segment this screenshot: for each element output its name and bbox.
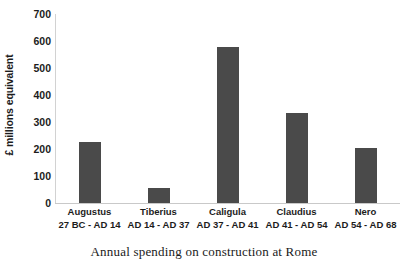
- bar-chart-figure: £ millions equivalent 700600500400300200…: [0, 0, 408, 270]
- bar-slot-tiberius: [124, 14, 193, 203]
- y-axis-tick-700: 700: [5, 9, 51, 20]
- plot-area: [55, 14, 400, 203]
- x-axis-label-range: AD 54 - AD 68: [327, 219, 405, 232]
- bar-tiberius[interactable]: [148, 188, 170, 203]
- chart-caption: Annual spending on construction at Rome: [0, 244, 408, 260]
- x-axis-label-name: Augustus: [51, 206, 129, 219]
- bar-slot-caligula: [193, 14, 262, 203]
- bar-nero[interactable]: [355, 148, 377, 203]
- x-axis-label-name: Caligula: [189, 206, 267, 219]
- y-axis-tick-0: 0: [5, 198, 51, 209]
- x-axis-label-name: Nero: [327, 206, 405, 219]
- bar-claudius[interactable]: [286, 113, 308, 203]
- x-axis-label-range: AD 41 - AD 54: [258, 219, 336, 232]
- y-axis-tick-labels: 7006005004003002001000: [0, 0, 51, 270]
- bar-augustus[interactable]: [79, 142, 101, 203]
- x-axis-category-labels: Augustus27 BC - AD 14TiberiusAD 14 - AD …: [55, 206, 400, 240]
- x-axis-label-range: AD 14 - AD 37: [120, 219, 198, 232]
- x-axis-label-nero: NeroAD 54 - AD 68: [327, 206, 405, 232]
- x-axis-label-range: AD 37 - AD 41: [189, 219, 267, 232]
- y-axis-tick-600: 600: [5, 36, 51, 47]
- x-axis-label-range: 27 BC - AD 14: [51, 219, 129, 232]
- x-axis-label-tiberius: TiberiusAD 14 - AD 37: [120, 206, 198, 232]
- x-axis-label-augustus: Augustus27 BC - AD 14: [51, 206, 129, 232]
- x-axis-line: [55, 203, 400, 204]
- bar-slot-claudius: [262, 14, 331, 203]
- bar-slot-nero: [331, 14, 400, 203]
- bar-slot-augustus: [55, 14, 124, 203]
- y-axis-tick-500: 500: [5, 63, 51, 74]
- x-axis-label-name: Tiberius: [120, 206, 198, 219]
- x-axis-label-name: Claudius: [258, 206, 336, 219]
- x-axis-label-claudius: ClaudiusAD 41 - AD 54: [258, 206, 336, 232]
- y-axis-tick-400: 400: [5, 90, 51, 101]
- bar-caligula[interactable]: [217, 47, 239, 203]
- x-axis-label-caligula: CaligulaAD 37 - AD 41: [189, 206, 267, 232]
- y-axis-tick-300: 300: [5, 117, 51, 128]
- y-axis-tick-200: 200: [5, 144, 51, 155]
- y-axis-tick-100: 100: [5, 171, 51, 182]
